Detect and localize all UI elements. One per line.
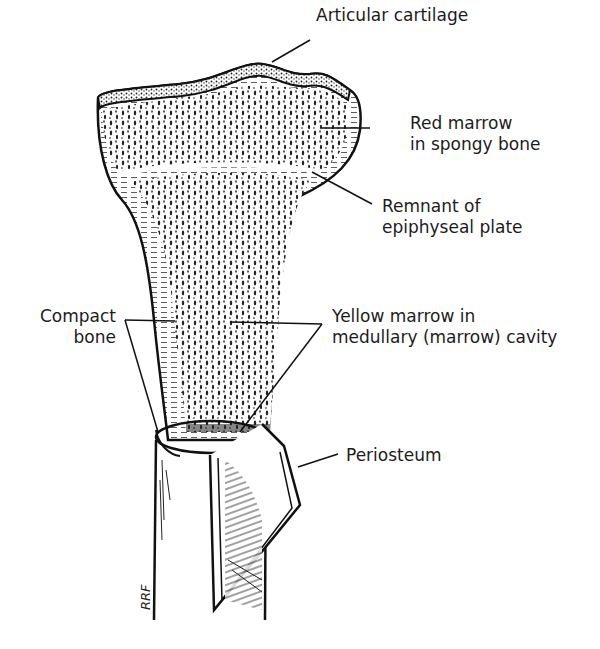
- label-epiphyseal-line1: Remnant of: [382, 196, 523, 217]
- label-red-marrow: Red marrow in spongy bone: [410, 113, 540, 155]
- label-epiphyseal-line2: epiphyseal plate: [382, 217, 523, 238]
- label-periosteum: Periosteum: [346, 445, 442, 466]
- label-yellow-line2: medullary (marrow) cavity: [332, 327, 557, 348]
- label-compact-bone: Compact bone: [30, 306, 116, 348]
- leader-compact: [125, 320, 175, 321]
- label-compact-line1: Compact: [30, 306, 116, 327]
- label-red-marrow-line1: Red marrow: [410, 113, 540, 134]
- label-compact-line2: bone: [30, 327, 116, 348]
- leader-articular: [272, 40, 310, 62]
- shaft-left: [154, 440, 156, 620]
- label-epiphyseal-plate: Remnant of epiphyseal plate: [382, 196, 523, 238]
- label-red-marrow-line2: in spongy bone: [410, 134, 540, 155]
- label-yellow-marrow: Yellow marrow in medullary (marrow) cavi…: [332, 306, 557, 348]
- label-yellow-line1: Yellow marrow in: [332, 306, 557, 327]
- leader-epiphyseal: [312, 172, 372, 204]
- artist-signature: RRF: [138, 584, 153, 610]
- leader-periosteum: [298, 454, 338, 467]
- label-articular-cartilage: Articular cartilage: [316, 5, 468, 26]
